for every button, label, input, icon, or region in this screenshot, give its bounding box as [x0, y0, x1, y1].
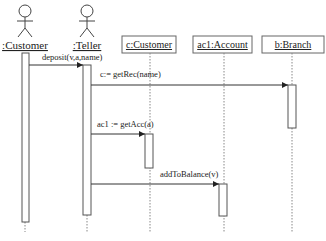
message-getrec: c:= getRec(name) [91, 69, 288, 85]
activation-c-customer [145, 134, 153, 168]
message-label: ac1 := getAcc(a) [97, 119, 154, 129]
message-label: c:= getRec(name) [100, 69, 161, 79]
message-getacc: ac1 := getAcc(a) [91, 119, 154, 134]
actor-customer: :Customer [2, 5, 48, 51]
message-deposit: deposit(v,a,name) [29, 52, 103, 65]
object-ac1-account: ac1:Account [193, 36, 252, 53]
object-label: b:Branch [275, 39, 312, 50]
message-label: deposit(v,a,name) [42, 52, 103, 62]
actor-teller: :Teller [73, 5, 102, 51]
activation-teller [83, 65, 91, 215]
activation-ac1-account [219, 184, 227, 216]
object-label: c:Customer [126, 39, 173, 50]
stick-figure-icon [17, 5, 33, 37]
message-label: addToBalance(v) [160, 169, 219, 179]
activation-b-branch [288, 85, 296, 128]
object-label: ac1:Account [197, 39, 248, 50]
activation-customer [22, 53, 29, 222]
actor-label-teller: :Teller [73, 39, 102, 51]
stick-figure-icon [79, 5, 95, 37]
object-b-branch: b:Branch [262, 36, 324, 53]
message-addtobalance: addToBalance(v) [91, 169, 219, 184]
actor-label-customer: :Customer [2, 39, 48, 51]
object-c-customer: c:Customer [122, 36, 176, 53]
